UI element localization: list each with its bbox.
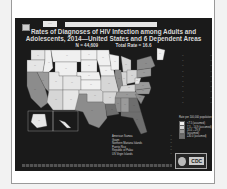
state-rate-label: ··	[136, 118, 138, 122]
legend-title: Rate per 100,000 population	[179, 116, 212, 119]
state-rate-label: ··	[111, 108, 113, 112]
state-rate-label: ··	[117, 102, 119, 106]
state-rate-label: ··	[55, 98, 57, 102]
slide-tag-short: ····	[43, 21, 57, 27]
slide-title: Rates of Diagnoses of HIV Infection amon…	[15, 28, 212, 43]
state-rate-label: ··	[34, 88, 36, 92]
state-rate-label: ··	[102, 56, 104, 60]
state-rate-label: ··	[88, 53, 90, 57]
state-rate-label: ··	[65, 67, 67, 71]
state-rate-label: ··	[105, 69, 107, 73]
callout-rate: ··	[210, 101, 212, 106]
state-rate-label: ··	[142, 84, 144, 88]
footnote	[22, 164, 172, 167]
state-rate-label: ··	[118, 77, 120, 81]
state-rate-label: ··	[126, 93, 128, 97]
state-fl	[121, 112, 147, 134]
state-rate-label: ··	[88, 64, 90, 68]
state-rate-label: ··	[38, 119, 40, 123]
state-rate-label: ··	[34, 64, 36, 68]
cdc-logo: CDC	[175, 153, 207, 169]
map-legend: Rate per 100,000 population <7.5 (assume…	[179, 116, 212, 139]
hhs-eagle-icon	[178, 157, 186, 166]
state-mn	[97, 50, 111, 66]
state-rate-label: ··	[145, 62, 147, 66]
state-rate-label: ··	[55, 80, 57, 84]
state-rate-label: ··	[108, 82, 110, 86]
state-rate-label: ··	[131, 74, 133, 78]
state-rate-label: ··	[133, 104, 135, 108]
state-rate-label: ··	[71, 81, 73, 85]
state-rate-label: ··	[136, 79, 138, 83]
state-rate-label: ··	[42, 79, 44, 83]
state-rate-label: ··	[66, 54, 68, 58]
callout-row: ····	[182, 101, 212, 106]
state-rate-label: ··	[159, 52, 161, 56]
state-rate-label: ··	[128, 86, 130, 90]
small-state-callouts: ········································	[182, 54, 212, 106]
state-rate-label: ··	[125, 63, 127, 67]
territory-row: US Virgin Islands··	[112, 153, 172, 157]
legend-label: ≥30.0 (assumed)	[187, 135, 206, 138]
slide-tag-long: ········································…	[65, 22, 157, 27]
state-rate-label: ··	[94, 94, 96, 98]
state-rate-label: ··	[91, 109, 93, 113]
state-hi	[59, 120, 71, 128]
slide-image: ···· ···································…	[15, 18, 212, 171]
state-rate-label: ··	[70, 98, 72, 102]
callout-state: ··	[182, 101, 184, 106]
state-rate-label: ··	[124, 103, 126, 107]
state-rate-label: ··	[123, 77, 125, 81]
state-rate-label: ··	[143, 71, 145, 75]
legend-label: <7.5 (assumed)	[187, 122, 205, 125]
state-rate-label: ··	[48, 61, 50, 65]
state-rate-label: ··	[90, 83, 92, 87]
state-or	[27, 60, 45, 72]
state-rate-label: ··	[109, 96, 111, 100]
legend-swatch	[179, 134, 185, 139]
cdc-wordmark: CDC	[189, 157, 204, 165]
state-rate-label: ··	[37, 54, 39, 58]
state-rate-label: ··	[139, 96, 141, 100]
state-rate-label: ··	[142, 89, 144, 93]
state-rate-label: ··	[114, 60, 116, 64]
territory-name: US Virgin Islands	[112, 153, 133, 157]
territory-rate: ··	[170, 153, 172, 157]
territories-table: American Samoa··Guam··Northern Mariana I…	[112, 135, 172, 157]
hawaii-inset	[53, 111, 78, 131]
state-rate-label: ··	[88, 74, 90, 78]
state-rate-label: ··	[62, 122, 64, 126]
